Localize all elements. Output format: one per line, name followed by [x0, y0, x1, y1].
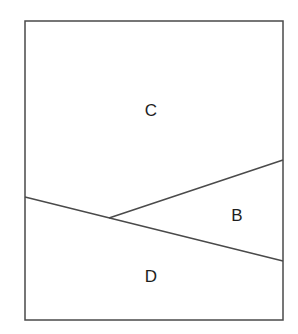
region-label-c: C	[145, 101, 157, 120]
region-label-d: D	[145, 267, 157, 286]
region-diagram: C B D	[0, 0, 298, 334]
region-label-b: B	[231, 206, 242, 225]
upper-diagonal-line	[109, 160, 283, 218]
lower-diagonal-line	[25, 197, 283, 261]
